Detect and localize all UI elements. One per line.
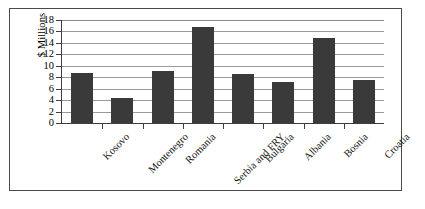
bar	[313, 38, 335, 123]
x-axis-tick-mark	[344, 124, 345, 129]
x-axis-tick-mark	[263, 124, 264, 129]
x-axis-tick-mark	[102, 124, 103, 129]
y-axis-tick-label: 2	[30, 107, 54, 117]
bar	[232, 74, 254, 123]
plot-area	[62, 20, 384, 123]
y-axis-tick-label: 8	[30, 72, 54, 82]
chart-figure: $ Millions 024681012141618 KosovoMontene…	[0, 0, 425, 209]
y-axis-tick-label: 10	[30, 61, 54, 71]
gridline	[62, 20, 384, 21]
x-axis-tick-mark	[304, 124, 305, 129]
bar	[152, 71, 174, 123]
y-axis-tick-label: 12	[30, 49, 54, 59]
y-axis-tick-label: 4	[30, 95, 54, 105]
x-axis-tick-mark	[183, 124, 184, 129]
y-axis-tick-label: 18	[30, 15, 54, 25]
gridline	[62, 77, 384, 78]
gridline	[62, 66, 384, 67]
gridline	[62, 54, 384, 55]
x-axis-tick-mark	[223, 124, 224, 129]
gridline	[62, 31, 384, 32]
bar	[111, 98, 133, 123]
bar	[353, 80, 375, 123]
gridline	[62, 43, 384, 44]
x-axis-tick-mark	[143, 124, 144, 129]
gridline	[62, 89, 384, 90]
bar	[192, 27, 214, 123]
bar	[71, 73, 93, 123]
y-axis-tick-label: 16	[30, 26, 54, 36]
y-axis-tick-label: 6	[30, 84, 54, 94]
bar	[272, 82, 294, 123]
y-axis-tick-label: 14	[30, 38, 54, 48]
y-axis-tick-label: 0	[30, 118, 54, 128]
